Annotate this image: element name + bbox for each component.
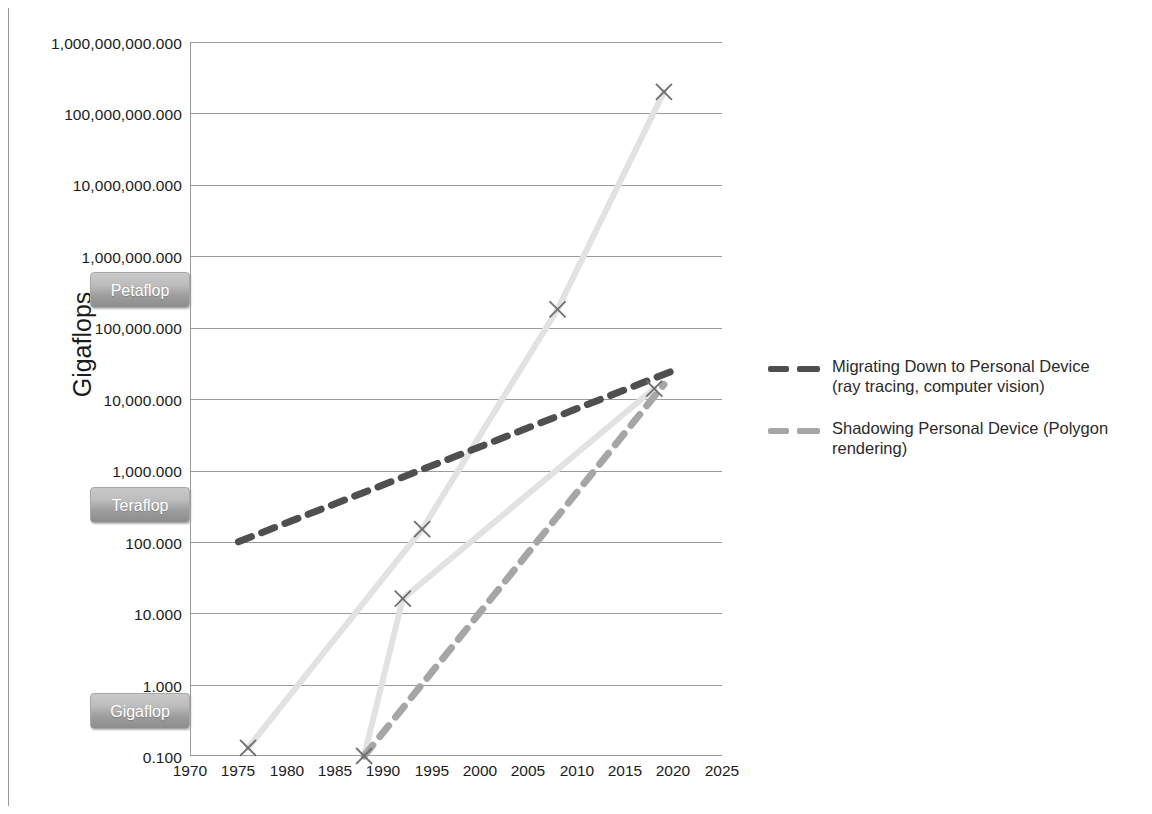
legend-item-migrating-down[interactable]: Migrating Down to Personal Device (ray t… — [768, 356, 1138, 396]
chart-legend: Migrating Down to Personal Device (ray t… — [768, 356, 1138, 480]
badge-gigaflop: Gigaflop — [90, 693, 190, 729]
legend-dashed-line-icon-dark — [768, 359, 822, 379]
legend-label-shadowing: Shadowing Personal Device (Polygon rende… — [832, 418, 1108, 458]
log-scale-compute-chart: 1,000,000,000.000 100,000,000.000 10,000… — [0, 0, 1152, 814]
series-line — [248, 92, 664, 748]
data-point-marker — [240, 740, 256, 756]
series-layer — [190, 42, 722, 756]
series-line — [364, 384, 664, 756]
legend-label-line2: (ray tracing, computer vision) — [832, 377, 1045, 395]
legend-label-line1: Shadowing Personal Device (Polygon — [832, 419, 1108, 437]
legend-dashed-line-icon-light — [768, 421, 822, 441]
x-tick-2025: 2025 — [692, 762, 752, 780]
x-axis-tick-labels: 1970 1975 1980 1985 1990 1995 2000 2005 … — [190, 762, 722, 788]
legend-item-shadowing[interactable]: Shadowing Personal Device (Polygon rende… — [768, 418, 1138, 458]
badge-petaflop: Petaflop — [90, 272, 190, 308]
badge-teraflop: Teraflop — [90, 487, 190, 523]
legend-label-line2: rendering) — [832, 439, 907, 457]
plot-area — [190, 42, 722, 756]
legend-label-migrating-down: Migrating Down to Personal Device (ray t… — [832, 356, 1090, 396]
legend-label-line1: Migrating Down to Personal Device — [832, 357, 1090, 375]
